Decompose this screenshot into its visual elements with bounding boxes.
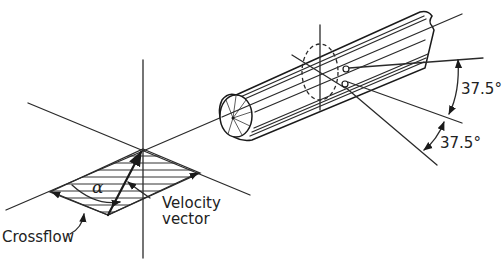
angle-label-upper: 37.5°: [461, 82, 502, 97]
crossflow-label: Crossflow: [2, 230, 74, 245]
diagonal-axis-line-a: [28, 103, 250, 195]
sensor-point-lower: [342, 81, 348, 87]
velocity-label-line1: Velocity: [162, 196, 221, 211]
ray-lower: [345, 87, 437, 165]
velocity-label-line2: vector: [162, 212, 210, 227]
alpha-label: α: [92, 180, 103, 195]
sensor-point-upper: [343, 66, 349, 72]
angle-arc-upper: [449, 60, 458, 114]
ray-middle: [348, 82, 462, 123]
angle-label-lower: 37.5°: [440, 136, 481, 151]
